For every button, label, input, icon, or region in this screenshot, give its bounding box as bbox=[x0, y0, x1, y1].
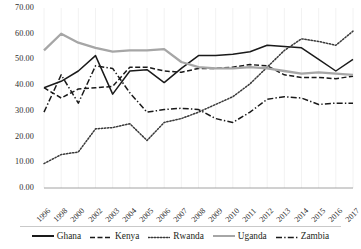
legend-swatch-rwanda bbox=[148, 233, 170, 240]
y-axis-tick-label: 70.00 bbox=[0, 4, 37, 12]
legend-swatch-uganda bbox=[213, 235, 235, 238]
x-axis-tick-label: 2000 bbox=[70, 207, 87, 224]
y-axis: 70.0060.0050.0040.0030.0020.0010.000.00 bbox=[0, 0, 37, 249]
legend-swatch-ghana bbox=[32, 235, 54, 237]
legend-item-rwanda[interactable]: Rwanda bbox=[148, 231, 203, 241]
x-axis-tick-label: 1996 bbox=[35, 207, 52, 224]
plot-area bbox=[44, 8, 353, 188]
y-axis-tick-label: 40.00 bbox=[0, 81, 37, 89]
x-axis-tick-label: 2005 bbox=[138, 207, 155, 224]
x-axis: 1996199820002002200320042005200620072008… bbox=[44, 188, 353, 224]
legend-label: Ghana bbox=[57, 231, 81, 241]
y-axis-tick-label: 60.00 bbox=[0, 30, 37, 38]
y-axis-tick-label: 50.00 bbox=[0, 55, 37, 63]
series-canvas bbox=[44, 8, 353, 188]
chart-legend: GhanaKenyaRwandaUgandaZambia bbox=[0, 226, 361, 246]
legend-item-zambia[interactable]: Zambia bbox=[276, 231, 329, 241]
x-axis-tick-label: 2013 bbox=[276, 207, 293, 224]
legend-label: Kenya bbox=[115, 231, 139, 241]
legend-label: Zambia bbox=[301, 231, 329, 241]
x-axis-tick-label: 2011 bbox=[241, 207, 258, 224]
legend-divider bbox=[20, 226, 341, 227]
legend-swatch-kenya bbox=[90, 233, 112, 240]
x-axis-tick-label: 1998 bbox=[52, 207, 69, 224]
legend-item-uganda[interactable]: Uganda bbox=[213, 231, 267, 241]
x-axis-tick-label: 2010 bbox=[224, 207, 241, 224]
x-axis-tick-label: 2014 bbox=[293, 207, 310, 224]
y-axis-tick-label: 10.00 bbox=[0, 158, 37, 166]
legend-label: Rwanda bbox=[173, 231, 203, 241]
legend-swatch-zambia bbox=[276, 233, 298, 240]
x-axis-tick-label: 2009 bbox=[207, 207, 224, 224]
x-axis-tick-label: 2016 bbox=[327, 207, 344, 224]
x-axis-tick-label: 2002 bbox=[87, 207, 104, 224]
y-axis-tick-label: 20.00 bbox=[0, 133, 37, 141]
legend-item-kenya[interactable]: Kenya bbox=[90, 231, 139, 241]
x-axis-tick-label: 2012 bbox=[258, 207, 275, 224]
x-axis-tick-label: 2006 bbox=[155, 207, 172, 224]
x-axis-tick-label: 2003 bbox=[104, 207, 121, 224]
x-axis-tick-label: 2015 bbox=[310, 207, 327, 224]
x-axis-tick-label: 2008 bbox=[190, 207, 207, 224]
x-axis-tick-label: 2017 bbox=[344, 207, 361, 224]
x-axis-tick-label: 2004 bbox=[121, 207, 138, 224]
x-axis-tick-label: 2007 bbox=[173, 207, 190, 224]
legend-item-ghana[interactable]: Ghana bbox=[32, 231, 81, 241]
line-chart: 70.0060.0050.0040.0030.0020.0010.000.00 … bbox=[0, 0, 361, 249]
legend-label: Uganda bbox=[238, 231, 267, 241]
y-axis-tick-label: 30.00 bbox=[0, 107, 37, 115]
y-axis-tick-label: 0.00 bbox=[0, 184, 37, 192]
